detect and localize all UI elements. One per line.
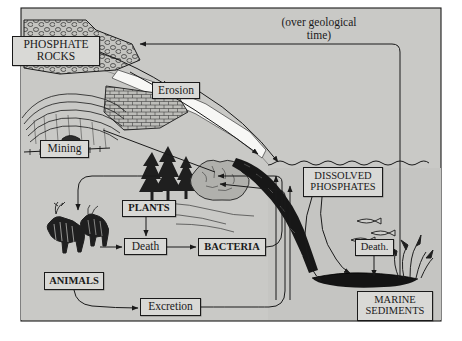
label-mining: Mining xyxy=(40,140,89,158)
label-erosion: Erosion xyxy=(152,82,200,99)
label-dissolved-phosphates: DISSOLVED PHOSPHATES xyxy=(303,167,383,197)
label-bacteria: BACTERIA xyxy=(198,238,266,256)
label-marine-sediments: MARINE SEDIMENTS xyxy=(357,291,433,321)
label-death-land: Death xyxy=(124,238,167,255)
label-death-marine: Death. xyxy=(355,239,394,256)
label-plants: PLANTS xyxy=(122,200,176,217)
annotation-geological-time: (over geological time) xyxy=(249,16,389,42)
phosphorus-cycle-figure: PHOSPHATE ROCKS Erosion Mining PLANTS De… xyxy=(0,0,462,341)
label-animals: ANIMALS xyxy=(44,272,104,290)
label-excretion: Excretion xyxy=(140,298,201,316)
label-phosphate-rocks: PHOSPHATE ROCKS xyxy=(12,36,100,66)
